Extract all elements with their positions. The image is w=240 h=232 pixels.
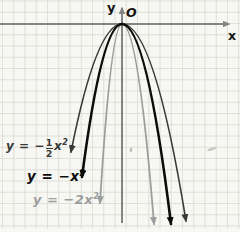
fraction-one-half: 12 xyxy=(46,138,53,159)
equation-half-prefix: y = − xyxy=(6,139,45,153)
origin-label: O xyxy=(126,5,137,20)
equation-label-neg-half-x-squared: y = −12x2 xyxy=(6,138,68,159)
curve-two-right-branch xyxy=(122,24,154,224)
curve-one-left-branch xyxy=(82,24,122,177)
fraction-numerator: 1 xyxy=(46,138,53,148)
equation-label-neg-2x-squared: y = −2x2 xyxy=(33,192,99,207)
y-axis-label: y xyxy=(107,0,115,15)
equation-two-exponent: 2 xyxy=(93,192,99,201)
x-axis-label: x xyxy=(228,28,236,43)
equation-one-exponent: 2 xyxy=(80,169,86,178)
curve-half-right-branch xyxy=(122,24,186,221)
equation-half-variable: x xyxy=(54,139,62,153)
equation-one-base: y = −x xyxy=(27,168,80,184)
equation-two-base: y = −2x xyxy=(33,192,93,207)
equation-label-neg-x-squared: y = −x2 xyxy=(27,168,86,184)
parabola-figure: y = −12x2 y = −x2 y = −2x2 y O x xyxy=(0,0,240,232)
paper-smudge xyxy=(129,148,133,153)
fraction-denominator: 2 xyxy=(46,148,53,159)
equation-half-exponent: 2 xyxy=(62,138,68,147)
